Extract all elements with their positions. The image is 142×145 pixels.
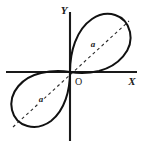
figure-canvas: Y X O a a (0, 0, 142, 145)
origin-label: O (75, 76, 82, 87)
lemniscate-upper-right-loop (70, 14, 131, 73)
lemniscate-figure: Y X O a a (0, 0, 142, 145)
x-axis-label: X (127, 75, 136, 87)
parameter-label-lower: a (39, 94, 44, 104)
y-axis-label: Y (61, 4, 69, 16)
parameter-label-upper: a (91, 39, 96, 49)
